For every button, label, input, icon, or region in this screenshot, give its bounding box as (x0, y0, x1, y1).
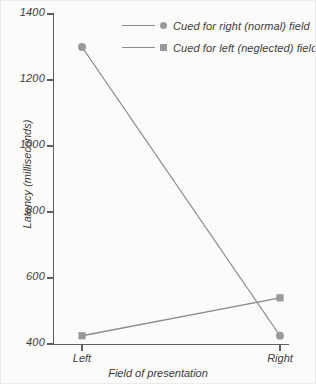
legend-item-label: Cued for right (normal) field (173, 20, 310, 32)
legend-item-cued-left: Cued for left (neglected) field (122, 41, 316, 54)
legend-item-cued-right: Cued for right (normal) field (122, 19, 316, 32)
data-point-square-marker (276, 294, 283, 301)
x-axis-title: Field of presentation (0, 367, 316, 379)
chart-figure: 400600800100012001400 LeftRight Cued for… (0, 0, 316, 384)
data-point-circle-marker (78, 43, 86, 51)
y-axis-title: Latency (milliseconds) (21, 84, 33, 264)
data-point-circle-marker (276, 332, 284, 340)
series-layer (0, 0, 316, 384)
legend-square-marker-icon (160, 44, 167, 51)
data-point-square-marker (78, 332, 85, 339)
legend-circle-marker-icon (160, 22, 167, 29)
series-line (82, 47, 280, 336)
legend-item-label: Cued for left (neglected) field (173, 42, 316, 54)
legend: Cued for right (normal) field Cued for l… (122, 19, 316, 54)
series-line (82, 298, 280, 336)
legend-line-icon (122, 47, 155, 48)
legend-line-icon (122, 25, 155, 26)
